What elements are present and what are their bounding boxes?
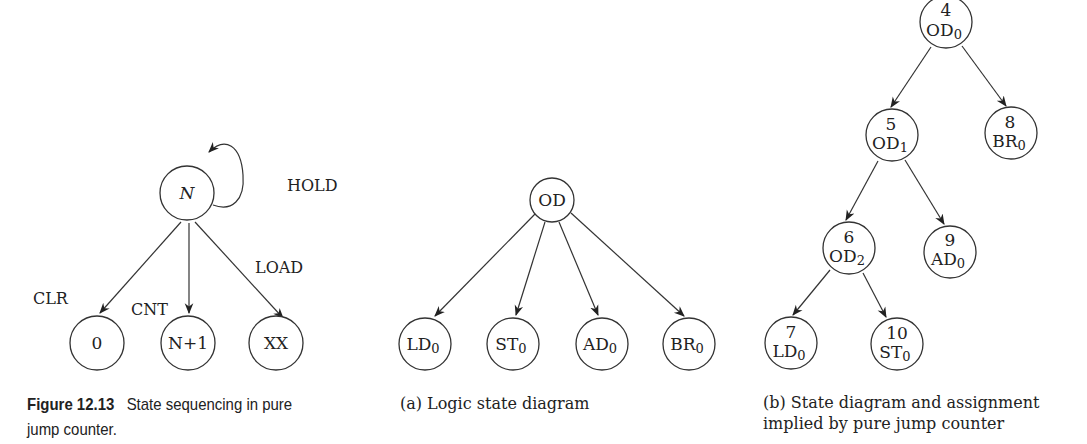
state-xx-label: XX <box>264 333 289 353</box>
edge-od-ad0 <box>559 222 598 315</box>
state-9-num: 9 <box>945 230 956 250</box>
diagram-canvas: N 0 N+1 XX HOLD CLR CNT LOAD OD LD0 ST0 … <box>0 0 1087 444</box>
edge-od-st0 <box>516 222 545 315</box>
figure-a-caption: (a) Logic state diagram <box>400 393 589 414</box>
edge-5-9 <box>905 160 944 224</box>
edge-4-8 <box>962 46 1006 106</box>
edge-label-load: LOAD <box>255 258 303 277</box>
edge-label-hold: HOLD <box>287 176 338 195</box>
state-5-num: 5 <box>886 114 897 134</box>
state-zero-label: 0 <box>92 333 103 353</box>
edge-label-cnt: CNT <box>131 300 168 319</box>
state-8-num: 8 <box>1005 112 1016 132</box>
state-6-num: 6 <box>844 227 855 247</box>
figure-a-diagram: OD LD0 ST0 AD0 BR0 <box>399 178 715 370</box>
figure-number: Figure 12.13 <box>27 395 114 414</box>
figure-caption-text-line2: jump counter. <box>27 417 292 442</box>
figure-caption-left: Figure 12.13State sequencing in pure jum… <box>27 392 292 442</box>
figure-left-diagram: N 0 N+1 XX HOLD CLR CNT LOAD <box>33 144 338 370</box>
state-n-label: N <box>179 183 196 203</box>
figure-b-caption-line2: implied by pure jump counter <box>763 413 1039 434</box>
state-4-num: 4 <box>941 0 952 20</box>
edge-od-br0 <box>571 213 684 316</box>
figure-b-caption-line1: (b) State diagram and assignment <box>763 392 1039 413</box>
state-7-num: 7 <box>786 322 797 342</box>
state-10-num: 10 <box>886 323 908 343</box>
edge-6-10 <box>863 273 886 317</box>
edge-6-7 <box>793 270 830 315</box>
figure-b-diagram: 4 OD0 5 OD1 8 BR0 6 OD2 9 AD0 7 LD0 10 S… <box>765 0 1037 370</box>
state-n-plus-1-label: N+1 <box>168 333 208 353</box>
edge-label-clr: CLR <box>33 289 69 308</box>
edge-4-5 <box>891 47 931 107</box>
figure-caption-text: State sequencing in pure <box>127 395 293 414</box>
figure-b-caption: (b) State diagram and assignment implied… <box>763 392 1039 434</box>
state-od-label: OD <box>538 190 566 210</box>
edge-5-6 <box>846 161 878 220</box>
